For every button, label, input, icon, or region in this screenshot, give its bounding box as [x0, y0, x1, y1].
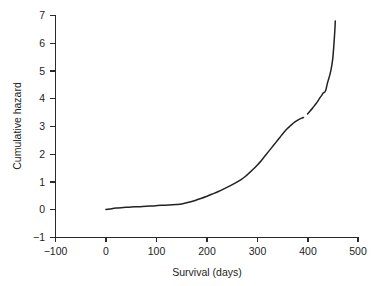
- x-axis-title: Survival (days): [172, 266, 241, 278]
- axes: [55, 15, 358, 238]
- y-tick-label-3: 3: [39, 120, 45, 132]
- y-tick-label-4: 4: [39, 92, 45, 104]
- data-series-group: [106, 21, 335, 209]
- y-tick-label-7: 7: [39, 9, 45, 21]
- x-tick-label-400: 400: [299, 245, 317, 257]
- y-tick-label-6: 6: [39, 37, 45, 49]
- x-tick-label-500: 500: [349, 245, 367, 257]
- x-tick-label-100: 100: [148, 245, 166, 257]
- y-axis-title: Cumulative hazard: [11, 82, 23, 170]
- y-tick-label-1: 1: [39, 176, 45, 188]
- y-tick-label-minus1: −1: [33, 231, 45, 243]
- y-axis-tick-labels: 7 6 5 4 3 2 1 0 −1: [33, 9, 45, 243]
- chart-figure: 7 6 5 4 3 2 1 0 −1 −100 0 100 200 300: [0, 0, 375, 286]
- x-tick-label-minus100: −100: [44, 245, 68, 257]
- x-tick-label-300: 300: [249, 245, 267, 257]
- x-tick-label-0: 0: [103, 245, 109, 257]
- cumulative-hazard-curve: [106, 117, 304, 209]
- cumulative-hazard-curve-segment-2: [308, 21, 336, 114]
- cumulative-hazard-chart: 7 6 5 4 3 2 1 0 −1 −100 0 100 200 300: [0, 0, 375, 286]
- y-tick-label-5: 5: [39, 65, 45, 77]
- y-tick-label-2: 2: [39, 148, 45, 160]
- x-axis-tick-labels: −100 0 100 200 300 400 500: [44, 245, 367, 257]
- x-tick-label-200: 200: [198, 245, 216, 257]
- y-tick-label-0: 0: [39, 203, 45, 215]
- y-axis-ticks: [50, 16, 55, 238]
